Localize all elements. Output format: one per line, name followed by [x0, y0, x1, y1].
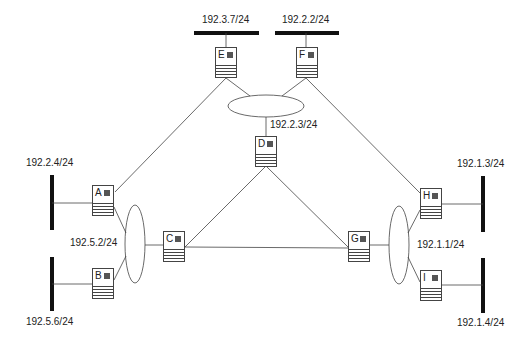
router-led-icon: [432, 275, 438, 281]
router-led-icon: [360, 236, 366, 242]
router-name: E: [218, 49, 225, 60]
router-name: B: [95, 270, 102, 281]
router-ports-icon: [256, 154, 276, 166]
network-label: 192.1.4/24: [457, 317, 504, 329]
router-name: F: [299, 49, 305, 60]
router-name: D: [258, 138, 265, 149]
network-label: 192.1.1/24: [417, 239, 464, 251]
router-led-icon: [308, 52, 314, 58]
router-led-icon: [104, 190, 110, 196]
router-led-icon: [432, 193, 438, 199]
network-diagram: 192.3.7/24 192.2.2/24 192.2.3/24 192.2.4…: [0, 0, 530, 346]
network-label: 192.2.4/24: [26, 157, 73, 169]
network-label: 192.1.3/24: [457, 158, 504, 170]
router-c: C: [163, 231, 185, 262]
router-name: I: [423, 272, 426, 283]
router-led-icon: [175, 236, 181, 242]
network-label: 192.2.3/24: [270, 119, 317, 131]
router-ports-icon: [93, 286, 113, 298]
network-label: 192.5.2/24: [70, 237, 117, 249]
router-name: A: [95, 187, 102, 198]
router-h: H: [420, 188, 442, 219]
router-ports-icon: [349, 249, 369, 261]
router-ports-icon: [421, 206, 441, 218]
router-b: B: [92, 268, 114, 299]
router-led-icon: [267, 141, 273, 147]
router-ports-icon: [93, 203, 113, 215]
router-ports-icon: [216, 65, 236, 77]
router-ports-icon: [421, 288, 441, 300]
links-layer: [0, 0, 530, 346]
router-led-icon: [104, 273, 110, 279]
router-name: H: [423, 190, 430, 201]
router-name: G: [351, 233, 359, 244]
router-a: A: [92, 185, 114, 216]
network-label: 192.5.6/24: [26, 316, 73, 328]
router-d: D: [255, 136, 277, 167]
router-ports-icon: [164, 249, 184, 261]
router-e: E: [215, 47, 237, 78]
router-led-icon: [227, 52, 233, 58]
router-name: C: [166, 233, 173, 244]
router-g: G: [348, 231, 370, 262]
router-f: F: [296, 47, 318, 78]
router-ports-icon: [297, 65, 317, 77]
network-label: 192.2.2/24: [282, 14, 329, 26]
network-label: 192.3.7/24: [202, 14, 249, 26]
router-i: I: [420, 270, 442, 301]
